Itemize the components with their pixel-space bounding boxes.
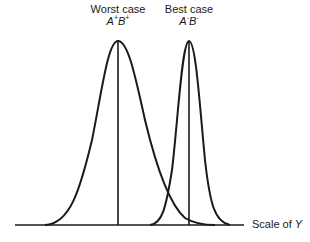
distribution-diagram: [0, 0, 310, 242]
best-case-curve: [150, 41, 230, 225]
axis-label: Scale of Y: [252, 218, 302, 230]
